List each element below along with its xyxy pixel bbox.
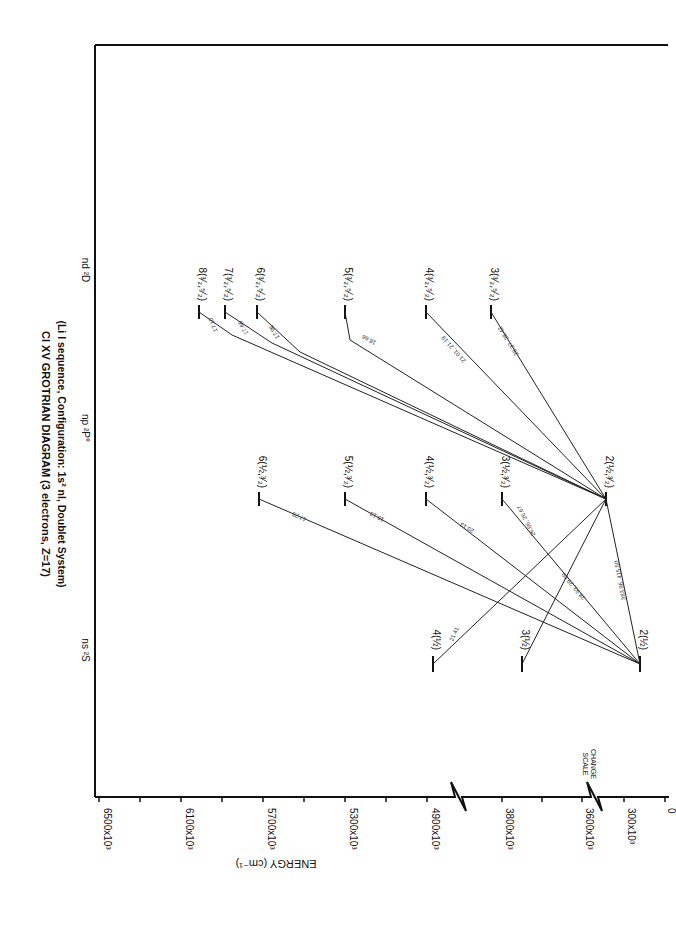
tick-label: 6500x10³: [102, 808, 113, 850]
transition-label: 21.01, 21.19: [440, 334, 467, 364]
diagram-subtitle: (Li I sequence, Configuration: 1s² nl, D…: [56, 320, 68, 587]
level-label-4p: 4(½,³⁄₂): [424, 456, 435, 488]
grotrian-diagram: Cl XV GROTRIAN DIAGRAM (3 electrons, Z=1…: [0, 0, 676, 929]
level-label-5p: 5(½,³⁄₂): [343, 456, 354, 488]
scale-change-label: CHANGE: [590, 749, 597, 779]
tick-label: 0: [666, 808, 676, 814]
diagram-title: Cl XV GROTRIAN DIAGRAM (3 electrons, Z=1…: [40, 331, 52, 577]
level-label-2s: 2(½): [638, 629, 649, 650]
level-label-3s: 3(½): [520, 629, 531, 650]
tick-label: 5700x10³: [266, 808, 277, 850]
level-label-3p: 3(½,³⁄₂): [500, 456, 511, 488]
level-label-3d: 3(³⁄₂,⁵⁄₂): [489, 267, 500, 301]
series-header-d: nd ²D: [80, 258, 91, 282]
level-label-5d: 5(³⁄₂,⁵⁄₂): [343, 267, 354, 301]
transition-label: 17.25: [290, 511, 307, 523]
level-label-6p: 6(½,³⁄₂): [257, 456, 268, 488]
tick-label: 3800x10³: [504, 808, 515, 850]
transition-lines: [199, 312, 640, 664]
tick-label: 4900x10³: [430, 808, 441, 850]
axis-label: ENERGY (cm⁻¹): [236, 858, 317, 870]
tick-label: 300x10³: [626, 808, 637, 845]
level-label-8d: 8(³⁄₂,⁵⁄₂): [197, 267, 208, 301]
scale-change-label: SCALE: [582, 753, 589, 776]
tick-label: 3600x10³: [584, 808, 595, 850]
transition-label: 383.96, 415.50: [613, 560, 627, 601]
level-label-4d: 4(³⁄₂,⁵⁄₂): [424, 267, 435, 301]
series-header-s: ns ²S: [80, 638, 91, 662]
transition-label: 20.13: [458, 521, 475, 534]
transition-label: 18.66: [360, 333, 377, 346]
level-label-2p: 2(½,³⁄₂): [604, 456, 615, 488]
series-header-p: np ²P°: [80, 414, 91, 442]
transition-label: 17.46: [237, 319, 250, 336]
level-label-4s: 4(½): [431, 629, 442, 650]
level-label-6d: 6(³⁄₂,⁵⁄₂): [255, 267, 266, 301]
tick-label: 5300x10³: [348, 808, 359, 850]
transition-label: 28.93, 29.09: [560, 571, 586, 601]
transition-label: 28.37, 28.42: [497, 325, 520, 357]
energy-axis: [95, 782, 669, 811]
level-label-7d: 7(³⁄₂,⁵⁄₂): [223, 267, 234, 301]
transition-label: 26.66, 26.67: [516, 504, 537, 537]
tick-label: 6100x10³: [184, 808, 195, 850]
transition-label: 18.13: [368, 510, 385, 523]
